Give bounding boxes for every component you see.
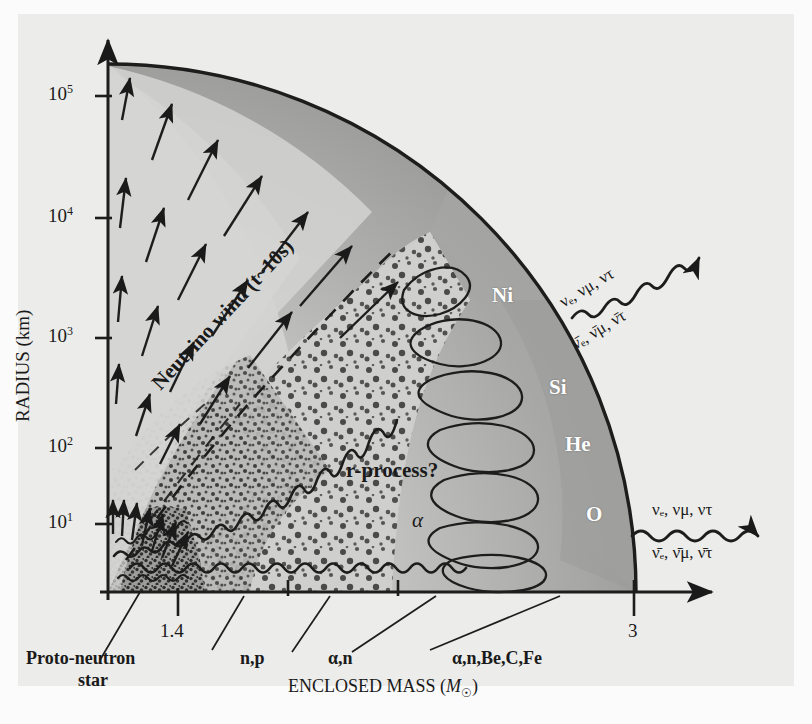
r-process-label: r-process? [346, 458, 438, 483]
y-tick-1e4: 104 [48, 204, 73, 227]
shell-label-si: Si [549, 375, 567, 400]
neutrino-lower-bottom-label: ν̄ₑ, ν̄μ, ν̄τ [652, 543, 712, 563]
y-tick-1e2: 102 [48, 434, 73, 457]
neutrino-stream-lower [632, 531, 758, 541]
shell-label-ni: Ni [492, 283, 513, 308]
figure-page: 105 104 103 102 101 RADIUS (km) 1.4 3 EN… [0, 0, 812, 724]
x-tick-3: 3 [628, 620, 638, 642]
x-tick-1p4: 1.4 [160, 620, 184, 642]
callout-alpha-n: α,n [328, 648, 353, 669]
y-tick-1e3: 103 [48, 324, 73, 347]
neutrino-lower-top-label: νₑ, νμ, ντ [652, 500, 712, 520]
y-axis-label: RADIUS (km) [12, 310, 34, 422]
callout-alpha-n-be-c-fe: α,n,Be,C,Fe [452, 648, 542, 669]
callout-proto-neutron-star-line2: star [78, 670, 108, 691]
alpha-label: α [412, 508, 423, 533]
y-tick-1e5: 105 [48, 82, 73, 105]
x-axis-label: ENCLOSED MASS (M☉) [288, 676, 478, 701]
shell-label-he: He [565, 432, 591, 457]
supernova-structure-diagram [0, 0, 812, 724]
y-tick-1e1: 101 [48, 510, 73, 533]
shell-label-o: O [586, 502, 602, 527]
callout-proto-neutron-star-line1: Proto-neutron [26, 648, 135, 669]
callout-np: n,p [240, 648, 265, 669]
